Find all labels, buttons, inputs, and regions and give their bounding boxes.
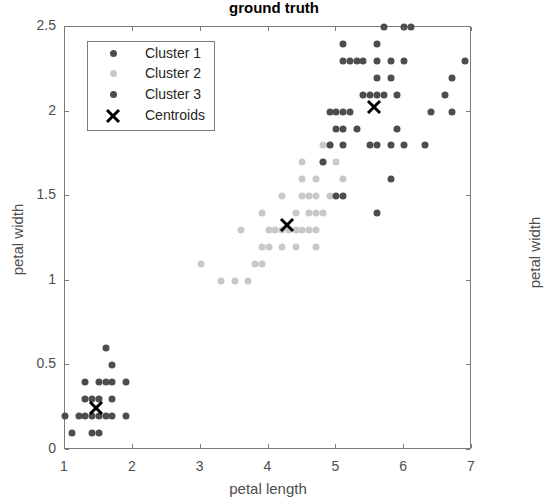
data-point [374, 57, 381, 64]
legend-label: Centroids [145, 107, 205, 123]
legend-label: Cluster 3 [145, 86, 201, 102]
data-point [374, 40, 381, 47]
cluster-1-marker-icon [110, 50, 117, 57]
data-point [394, 91, 401, 98]
data-point [319, 210, 326, 217]
y-tick-label: 2 [16, 102, 56, 118]
y-tick-right [466, 280, 470, 281]
data-point [123, 413, 130, 420]
data-point [394, 125, 401, 132]
x-tick-label: 7 [467, 458, 475, 474]
data-point [387, 176, 394, 183]
data-point [353, 125, 360, 132]
data-point [102, 345, 109, 352]
data-point [319, 159, 326, 166]
data-point [421, 142, 428, 149]
data-point [82, 379, 89, 386]
x-tick-label: 2 [128, 458, 136, 474]
data-point [265, 243, 272, 250]
data-point [374, 210, 381, 217]
data-point [279, 193, 286, 200]
data-point [258, 260, 265, 267]
data-point [95, 430, 102, 437]
data-point [123, 379, 130, 386]
x-tick [403, 444, 404, 448]
y-tick [65, 449, 69, 450]
cluster-2-marker-icon [110, 70, 117, 77]
data-point [346, 108, 353, 115]
y-axis-title-right: petal width [526, 217, 543, 289]
x-tick [200, 444, 201, 448]
x-tick-top [471, 27, 472, 31]
y-tick-label: 0.5 [16, 355, 56, 371]
data-point [407, 24, 414, 31]
data-point [279, 243, 286, 250]
x-tick-label: 4 [264, 458, 272, 474]
data-point [218, 277, 225, 284]
data-point [312, 193, 319, 200]
data-point [380, 24, 387, 31]
y-tick [65, 364, 69, 365]
y-tick-label: 0 [16, 440, 56, 456]
legend: Cluster 1 Cluster 2 Cluster 3 Centroids [87, 41, 215, 131]
x-axis-title: petal length [229, 480, 307, 497]
chart-title: ground truth [0, 0, 548, 16]
x-tick-top [132, 27, 133, 31]
data-point [462, 57, 469, 64]
y-tick-label: 1.5 [16, 186, 56, 202]
data-point [197, 260, 204, 267]
data-point [312, 227, 319, 234]
y-tick [65, 195, 69, 196]
x-tick-top [200, 27, 201, 31]
centroid-x-icon [279, 217, 295, 233]
data-point [109, 413, 116, 420]
centroid-x-icon [366, 99, 382, 115]
data-point [387, 57, 394, 64]
data-point [245, 277, 252, 284]
y-tick-right [466, 195, 470, 196]
x-tick [132, 444, 133, 448]
legend-item-cluster-1: Cluster 1 [88, 45, 214, 65]
data-point [333, 159, 340, 166]
data-point [109, 396, 116, 403]
data-point [428, 108, 435, 115]
data-point [340, 125, 347, 132]
data-point [448, 74, 455, 81]
legend-item-centroids: Centroids [88, 107, 214, 127]
y-tick-label: 2.5 [16, 17, 56, 33]
data-point [312, 243, 319, 250]
plot-area: Cluster 1 Cluster 2 Cluster 3 Centroids [64, 26, 471, 449]
y-tick [65, 111, 69, 112]
data-point [326, 142, 333, 149]
x-tick-label: 3 [196, 458, 204, 474]
legend-label: Cluster 1 [145, 45, 201, 61]
data-point [109, 379, 116, 386]
x-tick [471, 444, 472, 448]
data-point [292, 243, 299, 250]
x-tick-label: 6 [399, 458, 407, 474]
x-tick-top [403, 27, 404, 31]
data-point [441, 91, 448, 98]
data-point [62, 413, 69, 420]
data-point [374, 142, 381, 149]
data-point [340, 193, 347, 200]
x-tick-top [335, 27, 336, 31]
data-point [292, 210, 299, 217]
y-axis-title: petal width [9, 204, 26, 276]
y-tick-right [466, 111, 470, 112]
legend-item-cluster-3: Cluster 3 [88, 86, 214, 106]
y-tick [65, 26, 69, 27]
data-point [68, 430, 75, 437]
data-point [299, 159, 306, 166]
centroid-x-icon [88, 400, 104, 416]
data-point [340, 176, 347, 183]
data-point [231, 277, 238, 284]
data-point [401, 57, 408, 64]
x-tick-top [64, 27, 65, 31]
y-tick-right [466, 26, 470, 27]
legend-label: Cluster 2 [145, 65, 201, 81]
data-point [109, 362, 116, 369]
data-point [340, 142, 347, 149]
data-point [374, 74, 381, 81]
data-point [387, 74, 394, 81]
